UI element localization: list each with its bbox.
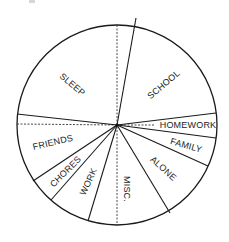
label-homework: HOMEWORK <box>160 120 217 130</box>
pie-center <box>115 123 118 126</box>
pie-chart: SLEEP SCHOOL HOMEWORK FAMILY ALONE MISC.… <box>0 0 229 242</box>
label-misc: MISC. <box>122 176 132 202</box>
